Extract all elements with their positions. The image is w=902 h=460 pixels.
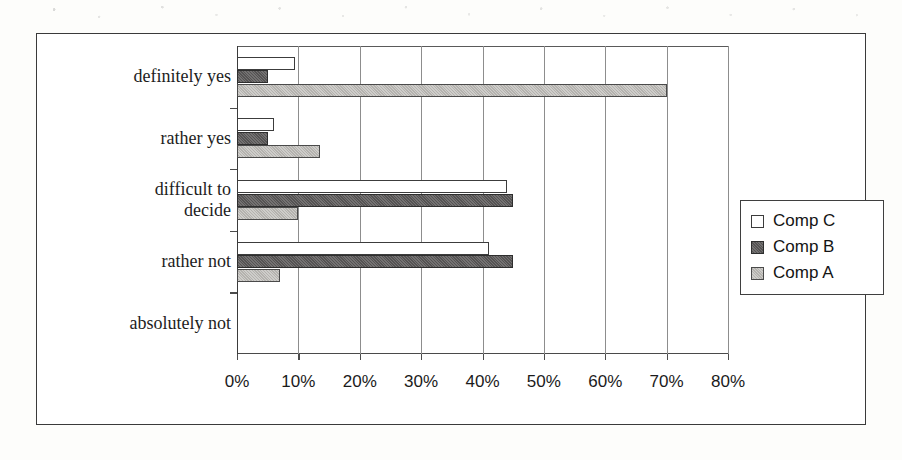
bar-comp-a bbox=[237, 269, 280, 282]
category-label: definitely yes bbox=[45, 66, 231, 87]
value-tick-70 bbox=[667, 354, 668, 360]
bar-comp-b bbox=[237, 194, 513, 207]
value-tick-label: 0% bbox=[225, 372, 250, 392]
value-tick-label: 70% bbox=[650, 372, 684, 392]
value-tick-40 bbox=[483, 354, 484, 360]
value-tick-label: 80% bbox=[711, 372, 745, 392]
value-tick-60 bbox=[605, 354, 606, 360]
legend-label: Comp A bbox=[773, 263, 833, 283]
legend-swatch-icon bbox=[751, 241, 764, 254]
bar-comp-c bbox=[237, 57, 295, 70]
bar-comp-b bbox=[237, 255, 513, 268]
legend-item: Comp B bbox=[751, 234, 875, 260]
chart-legend: Comp CComp BComp A bbox=[740, 200, 884, 295]
category-tick bbox=[230, 108, 237, 109]
value-tick-50 bbox=[544, 354, 545, 360]
value-tick-80 bbox=[728, 354, 729, 360]
legend-swatch-icon bbox=[751, 267, 764, 280]
legend-item: Comp C bbox=[751, 208, 875, 234]
category-label: rather not bbox=[45, 251, 231, 272]
value-tick-30 bbox=[421, 354, 422, 360]
gridline-70 bbox=[667, 46, 668, 354]
chart-frame: definitely yesrather yesdifficult todeci… bbox=[36, 33, 866, 425]
bar-comp-a bbox=[237, 145, 320, 158]
category-label: rather yes bbox=[45, 128, 231, 149]
value-tick-label: 30% bbox=[404, 372, 438, 392]
bar-comp-c bbox=[237, 242, 489, 255]
bar-comp-c bbox=[237, 118, 274, 131]
value-tick-10 bbox=[298, 354, 299, 360]
category-tick bbox=[230, 169, 237, 170]
legend-swatch-icon bbox=[751, 215, 764, 228]
bar-comp-c bbox=[237, 180, 507, 193]
value-tick-20 bbox=[360, 354, 361, 360]
scan-artifact bbox=[0, 0, 902, 24]
value-tick-label: 20% bbox=[343, 372, 377, 392]
plot-area: 0%10%20%30%40%50%60%70%80% bbox=[237, 46, 728, 354]
gridline-80 bbox=[728, 46, 729, 354]
category-axis-labels: definitely yesrather yesdifficult todeci… bbox=[37, 46, 231, 354]
value-tick-0 bbox=[237, 354, 238, 360]
legend-item: Comp A bbox=[751, 260, 875, 286]
category-tick bbox=[230, 231, 237, 232]
bar-comp-b bbox=[237, 132, 268, 145]
bar-comp-a bbox=[237, 207, 298, 220]
chart-page: definitely yesrather yesdifficult todeci… bbox=[0, 0, 902, 460]
category-tick bbox=[230, 292, 237, 293]
value-tick-label: 60% bbox=[588, 372, 622, 392]
value-tick-label: 40% bbox=[465, 372, 499, 392]
category-label: difficult todecide bbox=[45, 179, 231, 221]
value-tick-label: 10% bbox=[281, 372, 315, 392]
legend-label: Comp C bbox=[773, 211, 835, 231]
value-tick-label: 50% bbox=[527, 372, 561, 392]
bar-comp-b bbox=[237, 70, 268, 83]
category-label: absolutely not bbox=[45, 313, 231, 334]
legend-label: Comp B bbox=[773, 237, 834, 257]
bar-comp-a bbox=[237, 84, 667, 97]
